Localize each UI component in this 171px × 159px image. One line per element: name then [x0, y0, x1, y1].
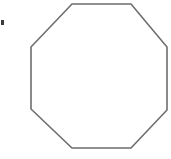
figure-canvas: A regular octagon drawn as a thin gray o…	[0, 0, 171, 159]
octagon-shape	[31, 4, 167, 148]
scan-speck-artifact	[1, 20, 4, 25]
octagon-figure	[0, 0, 171, 159]
